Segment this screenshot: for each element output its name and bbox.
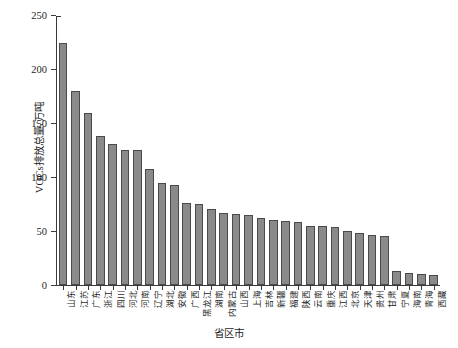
- bar: [269, 220, 278, 285]
- bar: [355, 233, 364, 285]
- y-tick: 250: [51, 15, 56, 16]
- x-category-label: 江西: [339, 290, 348, 330]
- bar: [133, 150, 142, 285]
- bar: [96, 136, 105, 285]
- bar: [71, 91, 80, 285]
- x-category-label: 广西: [191, 290, 200, 330]
- bar: [145, 169, 154, 285]
- x-category-label-group: 山东江苏广东浙江四川河北河南辽宁湖北安徽广西黑龙江湖南内蒙古山西上海吉林新疆福建…: [57, 290, 440, 330]
- voc-emissions-bar-chart: VOCs排放总量/万吨 050100150200250 山东江苏广东浙江四川河北…: [0, 0, 458, 348]
- x-category-label: 贵州: [376, 290, 385, 330]
- x-category-label: 湖南: [215, 290, 224, 330]
- x-category-label: 浙江: [104, 290, 113, 330]
- bar: [244, 215, 253, 285]
- bar: [195, 204, 204, 285]
- x-category-label: 福建: [290, 290, 299, 330]
- bar: [232, 214, 241, 285]
- bar: [207, 209, 216, 285]
- bar: [257, 218, 266, 285]
- bar: [170, 185, 179, 285]
- bar: [294, 222, 303, 285]
- bar: [182, 203, 191, 285]
- x-category-label: 重庆: [327, 290, 336, 330]
- x-category-label: 山东: [67, 290, 76, 330]
- y-tick: 0: [51, 285, 56, 286]
- bar: [306, 226, 315, 285]
- bar: [343, 231, 352, 285]
- x-category-label: 陕西: [302, 290, 311, 330]
- x-category-label: 辽宁: [154, 290, 163, 330]
- x-axis-title: 省区市: [0, 325, 458, 340]
- x-category-label: 黑龙江: [203, 290, 212, 330]
- bar: [405, 273, 414, 285]
- x-category-label: 宁夏: [401, 290, 410, 330]
- y-tick-label: 200: [31, 64, 47, 75]
- bar: [380, 236, 389, 285]
- x-category-label: 北京: [351, 290, 360, 330]
- bar: [108, 144, 117, 285]
- y-tick-label: 100: [31, 172, 47, 183]
- plot-area: 050100150200250: [56, 16, 440, 286]
- bar: [59, 43, 68, 285]
- x-category-label: 天津: [364, 290, 373, 330]
- x-category-label: 河南: [141, 290, 150, 330]
- x-category-label: 新疆: [277, 290, 286, 330]
- x-category-label: 上海: [253, 290, 262, 330]
- x-category-label: 云南: [314, 290, 323, 330]
- y-tick-label: 150: [31, 118, 47, 129]
- x-category-label: 湖北: [166, 290, 175, 330]
- bar: [417, 274, 426, 285]
- y-tick: 100: [51, 177, 56, 178]
- x-category-label: 江苏: [80, 290, 89, 330]
- bar: [429, 275, 438, 285]
- x-category-label: 山西: [240, 290, 249, 330]
- x-category-label: 广东: [92, 290, 101, 330]
- bar: [84, 113, 93, 285]
- y-tick-label: 50: [37, 226, 48, 237]
- bar: [281, 221, 290, 285]
- bar: [158, 183, 167, 285]
- x-category-label: 吉林: [265, 290, 274, 330]
- bar-series: [57, 16, 440, 285]
- y-tick-label: 0: [42, 280, 47, 291]
- x-category-label: 河北: [129, 290, 138, 330]
- y-tick: 50: [51, 231, 56, 232]
- x-category-label: 青海: [425, 290, 434, 330]
- y-tick: 150: [51, 123, 56, 124]
- bar: [219, 213, 228, 285]
- x-category-label: 西藏: [438, 290, 447, 330]
- bar: [392, 271, 401, 285]
- x-category-label: 海南: [413, 290, 422, 330]
- y-tick: 200: [51, 69, 56, 70]
- bar: [331, 227, 340, 285]
- x-category-label: 内蒙古: [228, 290, 237, 330]
- x-category-label: 四川: [117, 290, 126, 330]
- bar: [121, 150, 130, 285]
- x-category-label: 甘肃: [388, 290, 397, 330]
- bar: [368, 235, 377, 285]
- x-category-label: 安徽: [178, 290, 187, 330]
- y-tick-label: 250: [31, 10, 47, 21]
- bar: [318, 226, 327, 285]
